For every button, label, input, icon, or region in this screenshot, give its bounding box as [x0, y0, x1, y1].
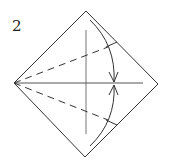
valley-fold-lower — [14, 83, 108, 120]
fold-arrow-lower — [90, 85, 114, 146]
arrowhead-upper — [109, 72, 118, 82]
origami-diagram — [0, 0, 169, 161]
fold-arrow-upper — [90, 20, 114, 82]
arrowhead-lower — [109, 85, 118, 95]
valley-fold-upper — [14, 47, 108, 83]
